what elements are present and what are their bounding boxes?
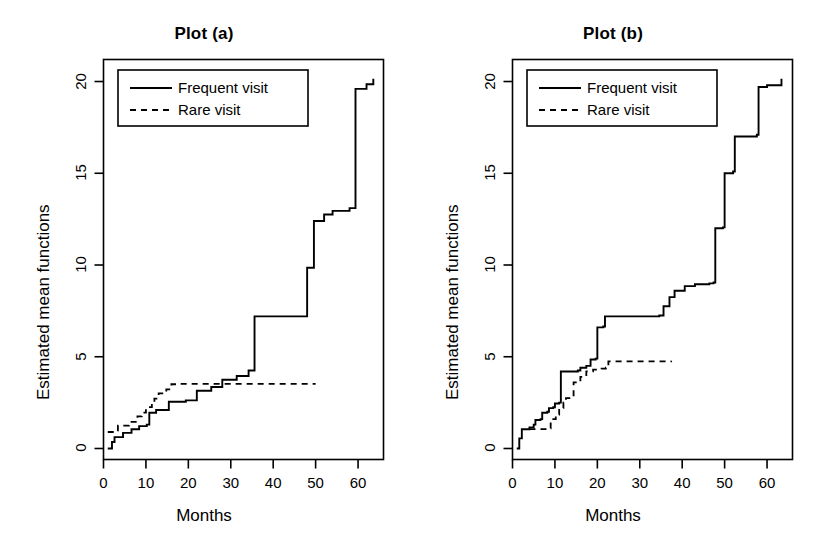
x-tick-label: 50 [296,474,336,491]
y-tick-label: 15 [480,163,497,183]
panel-b-x-axis-title: Months [409,506,817,526]
x-tick-label: 30 [620,474,660,491]
x-tick-label: 0 [493,474,533,491]
y-tick-label: 10 [71,255,88,275]
y-tick-label: 0 [480,438,497,458]
panel-a-data-series [108,79,374,449]
x-tick-label: 60 [747,474,787,491]
panel-b-legend-label-1: Rare visit [587,101,650,118]
panel-a-y-axis-title: Estimated mean functions [34,204,54,400]
panel-b-data-series [517,79,782,449]
x-tick-label: 0 [84,474,124,491]
panel-b-tick-marks [504,82,768,469]
x-tick-label: 20 [168,474,208,491]
x-tick-label: 40 [662,474,702,491]
panel-a-legend-label-1: Rare visit [178,101,241,118]
x-tick-label: 10 [535,474,575,491]
panel-b-y-axis-title: Estimated mean functions [443,204,463,400]
panel-a-x-axis-title: Months [0,506,408,526]
x-tick-label: 10 [126,474,166,491]
y-tick-label: 20 [71,71,88,91]
panel-a-legend-label-0: Frequent visit [178,79,268,96]
y-tick-label: 5 [480,346,497,366]
series-line-rare-visit [529,361,671,429]
x-tick-label: 20 [577,474,617,491]
x-tick-label: 40 [253,474,293,491]
x-tick-label: 50 [705,474,745,491]
series-line-frequent-visit [108,79,374,449]
y-tick-label: 0 [71,438,88,458]
chart-panel-b: Plot (b) Frequent visit Rare visit 01020… [409,0,817,553]
x-tick-label: 60 [338,474,378,491]
figure-root: Plot (a) Frequent visit Rare visit 01020… [0,0,817,553]
chart-panel-a: Plot (a) Frequent visit Rare visit 01020… [0,0,408,553]
panel-a-tick-marks [95,82,359,469]
x-tick-label: 30 [211,474,251,491]
y-tick-label: 20 [480,71,497,91]
y-tick-label: 5 [71,346,88,366]
series-line-frequent-visit [517,79,782,449]
panel-b-legend-label-0: Frequent visit [587,79,677,96]
y-tick-label: 10 [480,255,497,275]
y-tick-label: 15 [71,163,88,183]
